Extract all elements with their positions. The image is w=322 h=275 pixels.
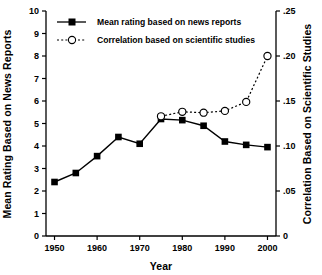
chart-figure: 012345678910 0.05.10.15.20.25 1950196019… (0, 0, 322, 275)
x-tick-label: 2000 (257, 243, 277, 253)
y-axis-tick-labels: 012345678910 (29, 6, 39, 241)
data-series-layer (51, 52, 271, 185)
chart-legend: Mean rating based on news reports Correl… (57, 17, 255, 45)
y-tick-label: 9 (34, 29, 39, 39)
x-axis-title: Year (150, 260, 173, 272)
y-tick-label: 10 (29, 6, 39, 16)
y-tick-label: 2 (34, 186, 39, 196)
y-tick-label: 5 (34, 119, 39, 129)
data-point-marker (200, 122, 207, 129)
chart-svg: 012345678910 0.05.10.15.20.25 1950196019… (0, 0, 322, 275)
x-tick-label: 1950 (45, 243, 65, 253)
legend-entry-news: Mean rating based on news reports (57, 17, 241, 27)
y-tick-label: 8 (34, 51, 39, 61)
data-point-marker (157, 113, 164, 120)
data-point-marker (264, 144, 271, 151)
x-tick-label: 1980 (172, 243, 192, 253)
y-tick-label: 1 (34, 209, 39, 219)
y2-axis-title: Correlation Based on Scientific Studies (301, 24, 313, 225)
y2-tick-label: .15 (283, 96, 296, 106)
series-news (51, 116, 271, 186)
data-point-marker (179, 108, 186, 115)
y2-tick-label: .25 (283, 6, 296, 16)
y-tick-label: 3 (34, 164, 39, 174)
data-point-marker (136, 140, 143, 147)
series-line (55, 119, 268, 182)
y-tick-label: 0 (34, 231, 39, 241)
y2-axis-tick-labels: 0.05.10.15.20.25 (283, 6, 296, 241)
data-point-marker (51, 179, 58, 186)
y-tick-label: 7 (34, 74, 39, 84)
y2-tick-label: 0 (283, 231, 288, 241)
data-point-marker (243, 98, 250, 105)
y-axis-title: Mean Rating Based on News Reports (1, 30, 13, 219)
legend-marker-open-circle (68, 36, 75, 43)
x-tick-label: 1970 (130, 243, 150, 253)
data-point-marker (73, 170, 80, 177)
x-axis-tick-labels: 195019601970198019902000 (45, 243, 278, 253)
data-point-marker (222, 138, 229, 145)
data-point-marker (115, 134, 122, 141)
data-point-marker (200, 109, 207, 116)
legend-label-scientific: Correlation based on scientific studies (97, 35, 255, 45)
data-point-marker (221, 107, 228, 114)
data-point-marker (179, 117, 186, 124)
legend-marker-filled-square (69, 19, 76, 26)
y2-tick-label: .10 (283, 141, 296, 151)
y-tick-label: 6 (34, 96, 39, 106)
legend-entry-scientific: Correlation based on scientific studies (57, 35, 255, 45)
data-point-marker (264, 52, 271, 59)
y-tick-label: 4 (34, 141, 39, 151)
series-line (161, 56, 267, 116)
data-point-marker (243, 142, 250, 149)
x-tick-label: 1960 (87, 243, 107, 253)
y2-tick-label: .20 (283, 51, 296, 61)
y2-tick-label: .05 (283, 186, 296, 196)
series-scientific (157, 52, 271, 120)
x-tick-label: 1990 (215, 243, 235, 253)
data-point-marker (94, 153, 101, 160)
legend-label-news: Mean rating based on news reports (97, 17, 241, 27)
